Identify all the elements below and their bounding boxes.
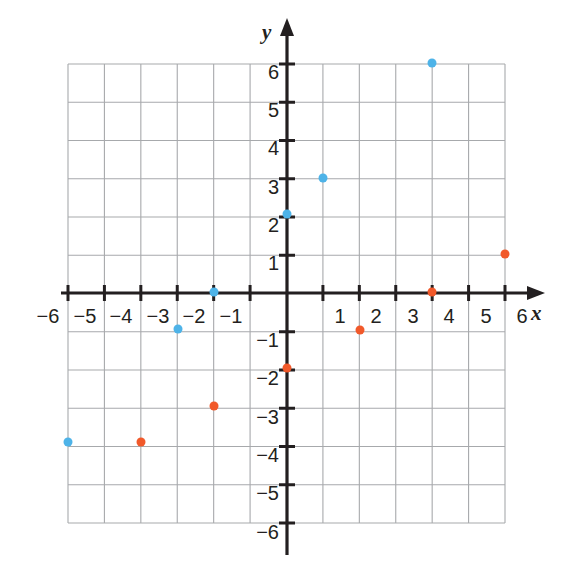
data-point-blue: [210, 288, 219, 297]
y-tick-label: 5: [233, 100, 279, 120]
y-tick-label: 6: [233, 62, 279, 82]
y-tick-label: −1: [233, 330, 279, 350]
x-tick-label: −6: [30, 306, 66, 326]
y-tick-label: −3: [233, 407, 279, 427]
x-tick-label: −3: [140, 306, 176, 326]
y-axis-label: y: [262, 22, 271, 43]
x-tick-label: 1: [322, 306, 358, 326]
data-point-orange: [137, 438, 146, 447]
y-tick-label: −6: [233, 522, 279, 542]
data-point-orange: [501, 250, 510, 259]
x-tick-label: −5: [67, 306, 103, 326]
x-tick-label: −4: [103, 306, 139, 326]
axis-lines: [61, 33, 528, 555]
y-tick-label: 1: [233, 253, 279, 273]
data-point-blue: [174, 325, 183, 334]
y-tick-label: 4: [233, 138, 279, 158]
y-tick-label: −5: [233, 483, 279, 503]
x-axis-label: x: [531, 303, 542, 324]
coordinate-plane-figure: −6−5−4−3−2−1123456 654321−1−2−3−4−5−6 x …: [0, 0, 579, 583]
y-tick-label: −4: [233, 445, 279, 465]
x-tick-label: −2: [176, 306, 212, 326]
y-axis-arrow: [280, 18, 294, 36]
y-tick-label: 2: [233, 215, 279, 235]
x-tick-label: −1: [213, 306, 249, 326]
data-point-orange: [210, 402, 219, 411]
x-tick-label: 3: [395, 306, 431, 326]
data-point-blue: [319, 174, 328, 183]
x-axis-arrow: [527, 286, 545, 300]
y-tick-label: 3: [233, 177, 279, 197]
data-point-blue: [428, 59, 437, 68]
data-point-blue: [283, 210, 292, 219]
x-tick-label: 4: [431, 306, 467, 326]
data-point-blue: [64, 438, 73, 447]
x-tick-label: 2: [358, 306, 394, 326]
data-point-orange: [428, 288, 437, 297]
grid-and-axes: [0, 0, 579, 583]
data-point-orange: [356, 326, 365, 335]
y-tick-label: −2: [233, 368, 279, 388]
x-tick-label: 5: [468, 306, 504, 326]
data-point-orange: [283, 364, 292, 373]
